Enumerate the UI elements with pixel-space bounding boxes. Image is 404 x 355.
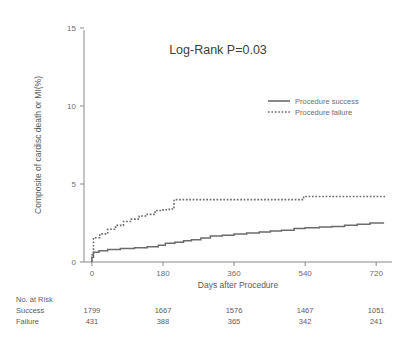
series-line-2: [92, 196, 386, 262]
risk-value-r1-c4: 1467: [297, 306, 314, 315]
risk-value-r1-c1: 1799: [84, 306, 101, 315]
risk-value-r1-c5: 1051: [368, 306, 385, 315]
legend-label-1: Procedure success: [295, 97, 359, 106]
y-tick-label: 15: [67, 24, 76, 33]
risk-value-r2-c3: 365: [228, 317, 241, 326]
x-axis-title: Days after Procedure: [198, 280, 279, 290]
y-tick-label: 0: [72, 258, 77, 267]
chart-canvas: 0510150180360540720Days after ProcedureC…: [0, 0, 404, 355]
risk-row-label-1: Success: [16, 306, 45, 315]
series-line-1: [92, 223, 384, 262]
y-tick-label: 10: [67, 102, 76, 111]
risk-value-r2-c2: 388: [157, 317, 170, 326]
x-tick-label: 360: [227, 269, 241, 278]
y-tick-label: 5: [72, 180, 77, 189]
risk-value-r1-c2: 1667: [155, 306, 172, 315]
chart-title: Log-Rank P=0.03: [169, 43, 267, 57]
x-tick-label: 720: [370, 269, 384, 278]
y-axis-title: Composite of cardisc death or MI(%): [33, 76, 43, 214]
risk-value-r2-c1: 431: [86, 317, 99, 326]
x-tick-label: 540: [298, 269, 312, 278]
risk-table-header: No. at Risk: [16, 295, 53, 304]
risk-row-label-2: Failure: [16, 317, 39, 326]
x-tick-label: 180: [156, 269, 170, 278]
x-tick-label: 0: [90, 269, 95, 278]
legend-label-2: Procedure failure: [295, 108, 352, 117]
kaplan-meier-figure: 0510150180360540720Days after ProcedureC…: [0, 0, 404, 355]
risk-value-r1-c3: 1576: [226, 306, 243, 315]
risk-value-r2-c4: 342: [299, 317, 312, 326]
risk-value-r2-c5: 241: [370, 317, 383, 326]
